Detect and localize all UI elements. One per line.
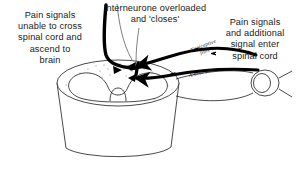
dorsal-root-ganglion	[251, 70, 292, 97]
figure-canvas: Pain signals unable to cross spinal cord…	[0, 0, 296, 169]
spinal-cord-segment	[57, 60, 179, 157]
annotation-right-signal-entry: Pain signals and additional signal enter…	[215, 17, 295, 62]
annotation-left-blocked-signal: Pain signals unable to cross spinal cord…	[2, 10, 98, 66]
annotation-top-interneurone: Interneurone overloaded and 'closes'	[103, 3, 207, 25]
